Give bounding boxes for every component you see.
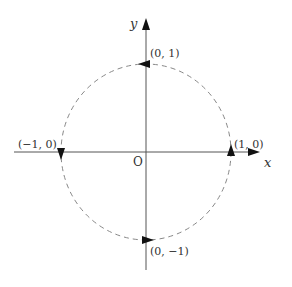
- point-label-bottom: (0, −1): [150, 245, 189, 258]
- origin-label: O: [133, 155, 143, 169]
- y-axis-arrowhead-icon: [142, 18, 150, 30]
- y-axis-label: y: [129, 16, 138, 31]
- point-label-right: (1, 0): [234, 138, 264, 151]
- arrow-right-icon: [142, 236, 154, 244]
- arrow-left-icon: [138, 60, 150, 68]
- unit-circle-diagram: y x O (0, 1) (−1, 0) (0, −1) (1, 0): [0, 0, 292, 287]
- arrow-down-icon: [57, 148, 65, 160]
- point-label-top: (0, 1): [150, 47, 180, 60]
- point-label-left: (−1, 0): [18, 138, 57, 151]
- x-axis-label: x: [264, 155, 272, 170]
